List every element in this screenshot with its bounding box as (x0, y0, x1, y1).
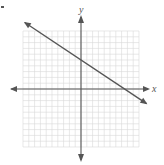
y-axis-up-arrow-icon (78, 15, 84, 23)
plotted-line (24, 22, 147, 104)
coordinate-graph: x y (0, 0, 164, 165)
line-end-arrow-icon (140, 98, 147, 104)
y-axis-label: y (78, 4, 84, 15)
x-axis-left-arrow-icon (10, 86, 17, 92)
line-start-arrow-icon (24, 22, 31, 28)
y-axis-down-arrow-icon (78, 154, 84, 162)
x-axis-right-arrow-icon (143, 86, 150, 92)
x-axis-label: x (151, 83, 157, 94)
